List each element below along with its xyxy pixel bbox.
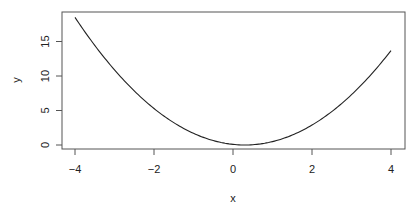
y-axis: 051015 [39, 35, 62, 148]
x-axis: −4−2024 [69, 149, 394, 175]
chart: −4−2024 051015 x y [0, 0, 413, 212]
plot-box [62, 12, 405, 149]
y-axis-label: y [10, 77, 22, 83]
x-axis-label: x [230, 192, 236, 204]
y-tick-label: 0 [39, 142, 51, 148]
x-tick-label: 4 [388, 163, 394, 175]
x-tick-label: −2 [148, 163, 161, 175]
x-tick-label: −4 [69, 163, 82, 175]
y-tick-label: 10 [39, 70, 51, 82]
x-tick-label: 2 [309, 163, 315, 175]
y-tick-label: 15 [39, 35, 51, 47]
x-tick-label: 0 [230, 163, 236, 175]
data-line [75, 17, 391, 145]
y-tick-label: 5 [39, 107, 51, 113]
